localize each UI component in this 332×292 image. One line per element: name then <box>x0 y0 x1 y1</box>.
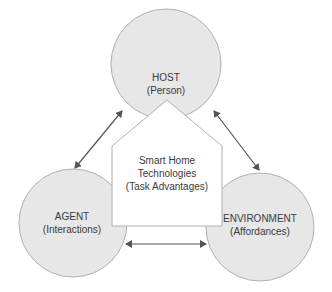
host-title: HOST <box>152 72 180 83</box>
agent-node <box>19 169 127 277</box>
diagram-canvas: HOST (Person) Smart Home Technologies (T… <box>0 0 332 292</box>
agent-title: AGENT <box>55 211 89 222</box>
agent-circle <box>19 169 127 277</box>
smart-home-line3: (Task Advantages) <box>126 181 208 192</box>
environment-title: ENVIRONMENT <box>223 213 297 224</box>
smart-home-line2: Technologies <box>138 168 196 179</box>
agent-subtitle: (Interactions) <box>43 224 101 235</box>
environment-subtitle: (Affordances) <box>230 226 290 237</box>
smart-home-line1: Smart Home <box>139 155 196 166</box>
host-subtitle: (Person) <box>147 85 185 96</box>
